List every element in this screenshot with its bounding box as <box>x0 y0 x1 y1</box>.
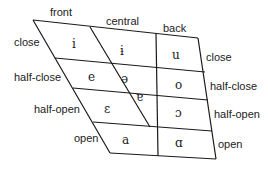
vowel-back-half-open: ɔ <box>175 106 182 120</box>
bottom-edge <box>110 153 216 159</box>
row-label-left-open: open <box>74 132 98 144</box>
vowel-front-open: a <box>122 133 129 147</box>
vowel-central-half-open: ɐ <box>136 90 143 104</box>
central-diagonal <box>90 27 150 127</box>
halfopen-open-divider <box>93 122 212 131</box>
row-label-right-open: open <box>218 138 242 150</box>
row-label-left-half-open: half-open <box>34 103 80 115</box>
row-label-left-close: close <box>14 36 40 48</box>
close-halfclose-divider <box>55 58 205 72</box>
vowel-central-close: ɨ <box>120 44 124 58</box>
vowel-front-half-open: ε <box>104 102 110 116</box>
vowel-back-open: ɑ <box>175 136 183 150</box>
vowel-back-close: u <box>172 48 180 62</box>
vowel-front-half-close: e <box>88 70 95 84</box>
column-label-central: central <box>106 15 139 27</box>
back-vertical <box>156 33 158 156</box>
row-label-right-half-close: half-close <box>210 80 257 92</box>
row-label-right-half-open: half-open <box>214 108 260 120</box>
vowel-chart: front central back close half-close half… <box>0 0 268 169</box>
vowel-back-half-close: o <box>175 78 182 92</box>
row-label-right-close: close <box>206 51 232 63</box>
row-label-left-half-close: half-close <box>14 71 61 83</box>
column-label-front: front <box>50 6 72 18</box>
vowel-central-half-close: ə <box>121 72 128 86</box>
column-label-back: back <box>163 22 187 34</box>
vowel-quadrilateral: front central back close half-close half… <box>0 0 268 169</box>
vowel-front-close: i <box>72 37 76 51</box>
